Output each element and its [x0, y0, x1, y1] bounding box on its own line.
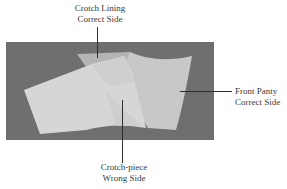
- label-crotch-piece: Crotch-piece Wrong Side: [92, 162, 156, 184]
- leader-line-crotch-lining: [97, 27, 98, 58]
- label-crotch-piece-line1: Crotch-piece: [92, 162, 156, 173]
- label-crotch-lining: Crotch Lining Correct Side: [68, 3, 132, 25]
- leader-line-crotch-piece: [122, 100, 123, 163]
- label-front-panty-line2: Correct Side: [235, 97, 280, 108]
- label-crotch-lining-line2: Correct Side: [68, 14, 132, 25]
- label-front-panty: Front Panty Correct Side: [235, 86, 280, 108]
- label-crotch-lining-line1: Crotch Lining: [68, 3, 132, 14]
- leader-line-front-panty: [180, 91, 232, 92]
- label-crotch-piece-line2: Wrong Side: [92, 173, 156, 184]
- label-front-panty-line1: Front Panty: [235, 86, 280, 97]
